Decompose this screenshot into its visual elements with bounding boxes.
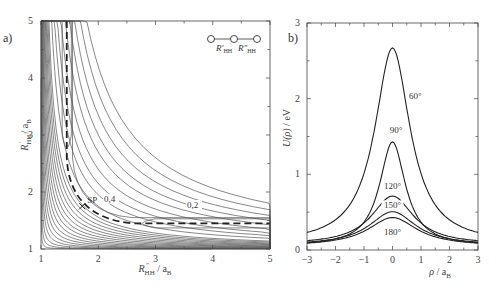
curve-label: 180° <box>384 227 402 237</box>
saddle-point-label: SP <box>87 195 97 205</box>
x-tick-label: 1 <box>39 253 44 264</box>
curve-label: 120° <box>384 181 402 191</box>
x-tick-label: 5 <box>268 253 273 264</box>
atom-icon <box>254 36 261 43</box>
plot-frame-b <box>307 23 478 250</box>
x-tick-label: −2 <box>330 254 341 265</box>
curve-label: 150° <box>384 200 402 210</box>
contour-label-04: 0,4 <box>104 194 116 204</box>
y-tick-label: 3 <box>295 17 300 28</box>
contour-lines <box>41 21 270 249</box>
y-tick-label: 2 <box>28 186 33 197</box>
y-tick-label: 4 <box>28 72 33 83</box>
x-tick-label: 0 <box>390 254 395 265</box>
y-tick-label: 1 <box>295 168 300 179</box>
y-tick-label: 1 <box>28 243 33 254</box>
x-tick-label: 2 <box>447 254 452 265</box>
x-tick-label: 3 <box>476 254 481 265</box>
panel-b: −3−2−101230123b)ρ / aBU(ρ) / eV60°90°120… <box>281 17 481 280</box>
x-tick-label: 2 <box>96 253 101 264</box>
atom-icon <box>231 36 238 43</box>
x-axis-label-a: RHH″ / aB <box>137 261 171 277</box>
x-axis-label-b: ρ / aB <box>428 266 451 280</box>
y-tick-label: 2 <box>295 93 300 104</box>
panel-a: 1234512345a)RHH″ / aBRHH′ / aBSP0,40,2R′… <box>3 15 273 277</box>
molecule-inset: R′HHR″HH <box>206 34 266 54</box>
atom-icon <box>208 36 215 43</box>
panel-label-b: b) <box>288 31 298 45</box>
x-tick-label: −1 <box>359 254 370 265</box>
x-tick-label: −3 <box>302 254 313 265</box>
y-axis-label-a: RHH′ / aB <box>17 119 33 152</box>
contour-label-02: 0,2 <box>187 200 198 210</box>
figure: 1234512345a)RHH″ / aBRHH′ / aBSP0,40,2R′… <box>0 0 500 289</box>
x-tick-label: 1 <box>419 254 424 265</box>
x-tick-label: 4 <box>210 253 215 264</box>
y-tick-label: 0 <box>295 244 300 255</box>
plot-frame-a <box>41 21 270 249</box>
curve-label: 90° <box>390 125 403 135</box>
y-tick-label: 5 <box>28 15 33 26</box>
curve-label: 60° <box>409 91 422 101</box>
panel-label-a: a) <box>3 31 12 45</box>
y-axis-label-b: U(ρ) / eV <box>281 108 293 147</box>
